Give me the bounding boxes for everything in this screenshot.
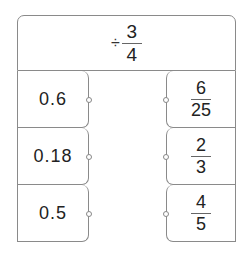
right-column: 6 25 2 3 4 5	[166, 71, 236, 242]
right-item[interactable]: 4 5	[166, 185, 236, 242]
fraction: 2 3	[191, 136, 211, 177]
connector-dot[interactable]	[86, 154, 92, 160]
left-column: 0.6 0.18 0.5	[17, 71, 89, 242]
connector-dot[interactable]	[163, 154, 169, 160]
right-item[interactable]: 6 25	[166, 71, 236, 128]
fraction-numerator: 3	[127, 22, 138, 42]
decimal-value: 0.18	[33, 146, 72, 167]
connector-dot[interactable]	[86, 97, 92, 103]
header-fraction: 3 4	[122, 22, 142, 65]
fraction-denominator: 4	[127, 45, 138, 65]
decimal-value: 0.6	[39, 89, 67, 110]
connector-dot[interactable]	[163, 211, 169, 217]
fraction-denominator: 3	[196, 158, 206, 177]
connector-dot[interactable]	[163, 97, 169, 103]
fraction-denominator: 5	[196, 215, 206, 234]
left-item[interactable]: 0.5	[17, 185, 89, 242]
left-item[interactable]: 0.18	[17, 128, 89, 185]
fraction: 4 5	[191, 193, 211, 234]
connector-dot[interactable]	[86, 211, 92, 217]
fraction-numerator: 6	[196, 79, 206, 98]
fraction-numerator: 2	[196, 136, 206, 155]
fraction-denominator: 25	[191, 101, 211, 120]
header-expression: ÷ 3 4	[18, 16, 235, 70]
divide-operator: ÷	[111, 34, 120, 52]
header-box: ÷ 3 4	[17, 15, 236, 71]
right-item[interactable]: 2 3	[166, 128, 236, 185]
left-item[interactable]: 0.6	[17, 71, 89, 128]
decimal-value: 0.5	[39, 203, 67, 224]
fraction: 6 25	[191, 79, 211, 120]
fraction-numerator: 4	[196, 193, 206, 212]
